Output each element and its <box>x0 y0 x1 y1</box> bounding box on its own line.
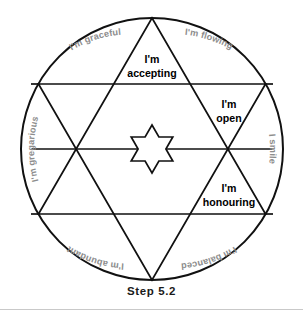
inner-label-open-line2: open <box>216 112 241 124</box>
inner-label-open-line1: I'm <box>222 98 237 110</box>
figure-caption: Step 5.2 <box>0 285 303 297</box>
hexagram-figure: I'm graceful I'm flowing I smile I'm bal… <box>0 0 303 318</box>
inner-label-accepting-line1: I'm <box>145 53 160 65</box>
inner-label-honouring-line2: honouring <box>203 196 255 208</box>
bottom-divider <box>0 309 303 310</box>
inner-label-honouring-line1: I'm <box>222 182 237 194</box>
hexagram-diagram: I'm graceful I'm flowing I smile I'm bal… <box>0 0 303 318</box>
inner-label-accepting-line2: accepting <box>127 67 176 79</box>
arc-label-smile: I smile <box>267 133 278 164</box>
